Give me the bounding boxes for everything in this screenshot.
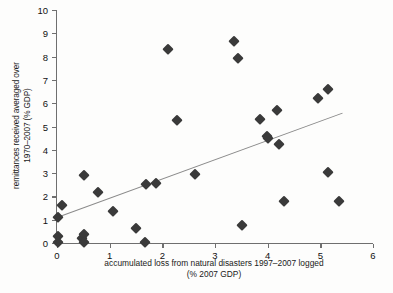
data-point [322, 84, 333, 95]
y-tick-9 [52, 33, 56, 34]
data-point [255, 114, 266, 125]
data-point [163, 44, 174, 55]
y-tick-7 [52, 80, 56, 81]
y-tick-label-1: 1 [43, 214, 48, 225]
y-tick-6 [52, 103, 56, 104]
y-axis-title: remittances received averaged over 1970–… [0, 0, 44, 250]
data-point [273, 138, 284, 149]
data-point [236, 219, 247, 230]
data-point [229, 35, 240, 46]
y-tick-label-2: 2 [43, 191, 48, 202]
y-tick-3 [52, 173, 56, 174]
data-point [279, 196, 290, 207]
y-tick-label-9: 9 [43, 28, 48, 39]
y-tick-label-0: 0 [43, 238, 48, 249]
y-tick-4 [52, 150, 56, 151]
data-point [93, 187, 104, 198]
y-tick-label-8: 8 [43, 51, 48, 62]
y-tick-5 [52, 127, 56, 128]
y-tick-10 [52, 10, 56, 11]
y-tick-8 [52, 57, 56, 58]
data-point [272, 105, 283, 116]
y-axis-title-line1: remittances received averaged over [12, 62, 21, 189]
data-point [79, 237, 90, 248]
y-axis-line [56, 10, 57, 243]
data-point [56, 200, 67, 211]
x-tick-3 [215, 244, 216, 248]
x-tick-4 [268, 244, 269, 248]
x-tick-1 [110, 244, 111, 248]
plot-area: 012345678910 0123456 [57, 10, 373, 243]
y-tick-label-4: 4 [43, 144, 48, 155]
x-axis-title-line1: accumulated loss from natural disasters … [104, 258, 323, 268]
data-point [141, 179, 152, 190]
data-point [334, 196, 345, 207]
x-tick-2 [162, 244, 163, 248]
y-tick-label-7: 7 [43, 74, 48, 85]
data-point [140, 236, 151, 247]
data-point [131, 222, 142, 233]
data-point [172, 114, 183, 125]
y-tick-label-6: 6 [43, 98, 48, 109]
data-point [107, 206, 118, 217]
y-tick-2 [52, 196, 56, 197]
data-point [313, 92, 324, 103]
data-point [190, 168, 201, 179]
y-tick-label-10: 10 [37, 5, 48, 16]
x-tick-6 [373, 244, 374, 248]
y-tick-label-3: 3 [43, 168, 48, 179]
data-point [323, 166, 334, 177]
x-axis-title-line2: (% 2007 GDP) [44, 269, 384, 280]
trend-line [57, 113, 343, 218]
x-axis-title: accumulated loss from natural disasters … [44, 258, 384, 280]
data-point [53, 212, 64, 223]
x-tick-5 [320, 244, 321, 248]
y-axis-title-line2: 1970–2007 (% GDP) [22, 62, 33, 189]
scatter-plot-figure: remittances received averaged over 1970–… [0, 0, 393, 293]
data-point [78, 170, 89, 181]
data-point [232, 52, 243, 63]
y-tick-label-5: 5 [43, 121, 48, 132]
